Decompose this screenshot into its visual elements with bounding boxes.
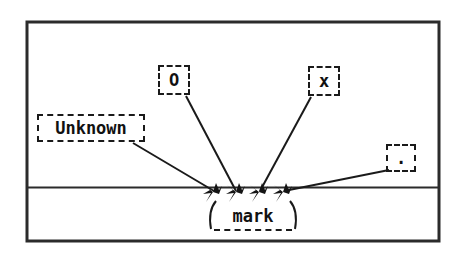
label-dot-text: . [396, 150, 406, 167]
label-x[interactable]: x [308, 66, 340, 96]
label-o-text: O [169, 72, 179, 89]
label-o[interactable]: O [158, 65, 190, 95]
label-x-text: x [319, 73, 329, 90]
label-mark-text: mark [233, 208, 274, 225]
label-mark[interactable]: mark [214, 203, 292, 231]
label-dot[interactable]: . [386, 144, 416, 172]
label-unknown[interactable]: Unknown [37, 114, 145, 142]
label-unknown-text: Unknown [55, 120, 127, 137]
diagram-canvas: Unknown O x . mark [0, 0, 462, 260]
